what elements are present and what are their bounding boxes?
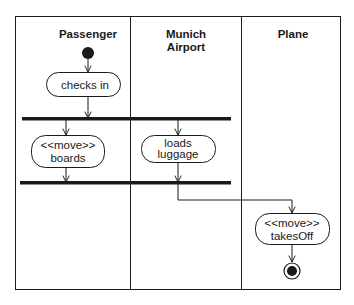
join-bar (20, 181, 231, 185)
lane-title-passenger: Passenger (59, 28, 118, 40)
initial-node-icon (82, 47, 94, 59)
activity-takes-off-label: takesOff (271, 230, 314, 242)
lane-title-munich-airport-line2: Airport (167, 41, 206, 53)
lane-title-munich-airport-line1: Munich (166, 28, 206, 40)
activity-checks-in-label: checks in (61, 79, 109, 91)
lane-title-plane: Plane (278, 28, 309, 40)
final-node-inner-icon (287, 266, 297, 276)
activity-boards-stereotype: <<move>> (41, 139, 96, 151)
activity-diagram: Passenger Munich Airport Plane checks in… (0, 0, 354, 305)
activity-loads-luggage-line2: luggage (158, 148, 199, 160)
fork-bar (22, 117, 231, 121)
flow-join-to-takes-off (178, 184, 292, 213)
activity-boards-label: boards (50, 152, 85, 164)
activity-takes-off-stereotype: <<move>> (265, 217, 320, 229)
